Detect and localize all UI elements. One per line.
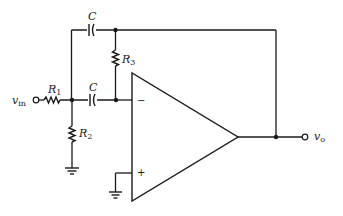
output-terminal (302, 134, 308, 140)
resistor-r2 (69, 126, 75, 142)
label-r3: R3 (121, 53, 135, 67)
label-inverting-input: − (137, 95, 145, 106)
label-noninverting-input: + (137, 167, 145, 178)
label-c-top: C (88, 10, 97, 23)
label-r1: R1 (47, 83, 61, 97)
label-r2: R2 (78, 127, 92, 141)
resistor-r1 (44, 97, 60, 103)
capacitor-c-top (87, 24, 96, 36)
input-terminal (33, 97, 39, 103)
circuit-schematic: vin R1 R2 R3 C C − + vo (0, 0, 343, 216)
capacitor-c-bottom (88, 94, 97, 106)
label-c-bottom: C (89, 81, 98, 94)
ground-icon-opamp (109, 192, 122, 198)
label-vo: vo (314, 130, 325, 144)
op-amp-triangle (132, 73, 238, 201)
resistor-r3 (113, 50, 119, 66)
ground-icon-r2 (65, 168, 79, 174)
label-vin: vin (12, 94, 26, 108)
circuit-diagram: vin R1 R2 R3 C C − + vo (0, 0, 343, 216)
